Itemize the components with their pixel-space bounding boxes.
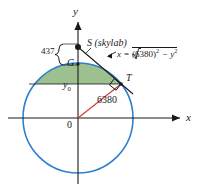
y-axis-label: y — [73, 6, 78, 17]
radical-sign-icon — [132, 47, 141, 60]
term2-exponent: 2 — [174, 48, 177, 54]
origin-label: 0 — [67, 120, 72, 130]
point-T-label: T — [126, 73, 132, 83]
point-T-dot — [119, 82, 123, 86]
y-axis-arrowhead — [74, 22, 81, 30]
y0-label: y0 — [63, 80, 71, 93]
radius-label: 6380 — [97, 95, 117, 105]
altitude-label: 437 — [41, 47, 55, 56]
s-label-leader — [86, 48, 91, 53]
point-G-label: G — [67, 58, 74, 68]
y0-subscript: 0 — [67, 85, 70, 92]
radical-group: (6380)2−y2 — [132, 47, 177, 59]
point-S-dot — [75, 44, 81, 50]
equation-leader-arrowhead — [107, 53, 112, 58]
skylab-geometry-figure: y x 0 S (skylab) G T 437 6380 y0 x=(6380… — [0, 0, 204, 191]
equation-minus: − — [159, 49, 170, 59]
x-axis-arrowhead — [172, 114, 180, 121]
altitude-brace — [55, 44, 63, 65]
equation-equals: = — [121, 49, 132, 59]
tangent-equation: x=(6380)2−y2 — [117, 47, 177, 59]
x-axis-label: x — [186, 112, 191, 123]
